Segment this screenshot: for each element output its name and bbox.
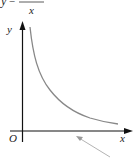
equation-denominator: x	[28, 4, 34, 16]
x-axis-label: x	[119, 132, 125, 144]
equation-equals: =	[9, 0, 15, 6]
hyperbola-figure: y = x y x O	[0, 0, 133, 160]
equation-lhs: y	[0, 0, 7, 8]
origin-label: O	[9, 132, 17, 144]
y-axis-label: y	[6, 23, 12, 35]
hyperbola-curve	[30, 27, 118, 124]
equation: y = x	[0, 0, 44, 16]
pointer-arrow	[76, 136, 110, 157]
y-axis-arrow-icon	[20, 21, 26, 30]
x-axis-arrow-icon	[124, 128, 133, 134]
